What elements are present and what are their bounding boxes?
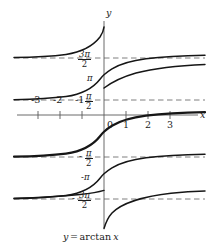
y-tick-neg-3pi-over-2-numerator: 3π	[78, 191, 91, 200]
caption-function: arctan	[80, 231, 112, 242]
y-tick-3pi-over-2-numerator: 3π	[78, 50, 91, 59]
y-tick-neg-3pi-over-2-denominator: 2	[78, 200, 91, 210]
x-tick-label--3: -3	[31, 95, 40, 105]
y-tick-neg-pi-over-2-denominator: 2	[85, 158, 93, 168]
x-tick-label-1: 1	[123, 120, 129, 130]
arctan-figure: y x 3π 2 π π 2 - π 2 -π - 3π 2 -3 -2 -1 …	[0, 0, 215, 247]
y-tick-neg-pi-symbol: π	[84, 172, 90, 182]
y-tick-label-3pi-over-2: 3π 2	[78, 50, 91, 70]
y-tick-pi-over-2-denominator: 2	[85, 101, 93, 111]
y-tick-pi-over-2-numerator: π	[85, 92, 93, 101]
y-tick-label-neg-3pi-over-2: - 3π 2	[78, 191, 91, 211]
branch-arctan-minus-2pi-right	[104, 191, 205, 229]
x-tick-label--2: -2	[53, 95, 62, 105]
x-tick-label-2: 2	[145, 120, 151, 130]
x-axis-label: x	[200, 110, 205, 120]
y-tick-label-pi: π	[87, 74, 93, 83]
caption-equals: =	[70, 231, 78, 242]
y-tick-label-neg-pi-over-2: - π 2	[85, 149, 93, 169]
y-tick-label-neg-pi: -π	[81, 173, 89, 182]
x-tick-label-3: 3	[167, 120, 173, 130]
y-tick-neg-pi-over-2-numerator: π	[85, 149, 93, 158]
caption-argument: x	[113, 231, 118, 242]
figure-caption: y=arctanx	[63, 231, 119, 242]
x-tick-label--1: -1	[75, 95, 84, 105]
x-tick-label-0: 0	[107, 120, 113, 130]
branch-arctan-plus-pi	[14, 55, 205, 99]
y-tick-3pi-over-2-denominator: 2	[78, 59, 91, 69]
y-axis-label: y	[106, 8, 111, 18]
y-tick-neg-3pi-over-2-sign: -	[72, 194, 75, 203]
y-tick-neg-pi-over-2-sign: -	[79, 152, 82, 161]
caption-lhs: y	[63, 231, 68, 242]
branch-arctan-plus-2pi-right	[104, 64, 205, 88]
y-tick-label-pi-over-2: π 2	[85, 92, 93, 112]
